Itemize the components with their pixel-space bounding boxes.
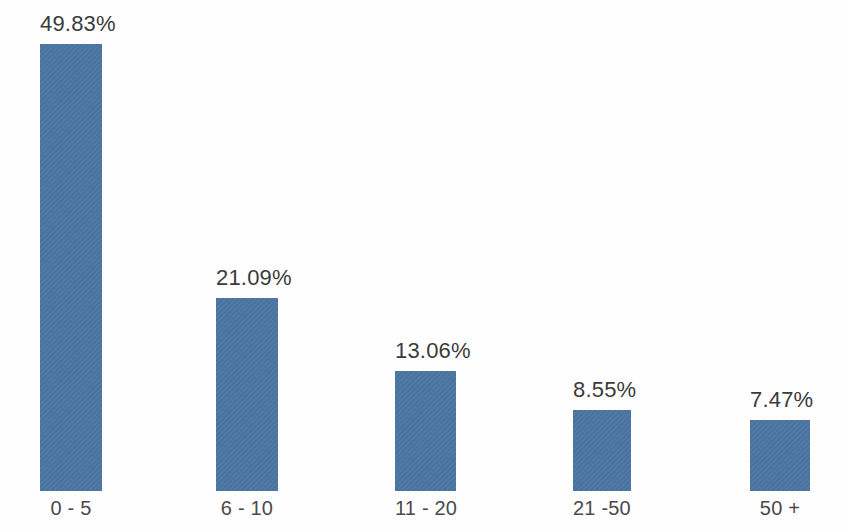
category-label-4: 50 + (750, 497, 810, 520)
bar-0[interactable] (40, 44, 102, 491)
bar-2[interactable] (395, 371, 456, 491)
bar-texture-0 (40, 44, 102, 491)
bar-group-3: 8.55% 21 -50 (573, 0, 631, 531)
category-label-3: 21 -50 (573, 497, 631, 520)
bar-texture-2 (395, 371, 456, 491)
bar-texture-1 (216, 298, 278, 491)
category-label-1: 6 - 10 (216, 497, 278, 520)
bar-texture-3 (573, 410, 631, 491)
bar-group-4: 7.47% 50 + (750, 0, 810, 531)
bar-1[interactable] (216, 298, 278, 491)
bar-group-2: 13.06% 11 - 20 (395, 0, 456, 531)
bar-value-label-1: 21.09% (216, 265, 278, 291)
category-label-2: 11 - 20 (395, 497, 456, 520)
bar-chart: 49.83% 0 - 5 21.09% 6 - 10 13.06% 11 - 2… (0, 0, 848, 531)
bar-3[interactable] (573, 410, 631, 491)
bar-value-label-2: 13.06% (395, 338, 456, 364)
bar-value-label-3: 8.55% (573, 377, 631, 403)
bar-group-0: 49.83% 0 - 5 (40, 0, 102, 531)
bar-value-label-0: 49.83% (40, 11, 102, 37)
bar-value-label-4: 7.47% (750, 387, 810, 413)
bar-texture-4 (750, 420, 810, 491)
plot-area: 49.83% 0 - 5 21.09% 6 - 10 13.06% 11 - 2… (0, 0, 848, 531)
bar-4[interactable] (750, 420, 810, 491)
bar-group-1: 21.09% 6 - 10 (216, 0, 278, 531)
category-label-0: 0 - 5 (40, 497, 102, 520)
